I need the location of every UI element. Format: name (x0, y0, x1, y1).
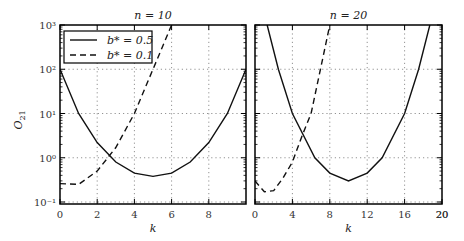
chart-figure: 0246810⁻¹10⁰10¹10²10³n = 10k04812162020n… (0, 0, 464, 241)
x-tick-label: 8 (327, 209, 333, 220)
x-tick-label: 0 (57, 209, 63, 220)
x-tick-label: 2 (94, 209, 100, 220)
panel-title: n = 10 (134, 9, 171, 22)
y-tick-label: 10⁰ (39, 153, 56, 164)
series-b05-line (60, 69, 246, 176)
y-tick-label: 10⁻¹ (34, 197, 56, 208)
panel-n20: 04812162020n = 20k (252, 9, 449, 235)
legend: b* = 0.5b* = 0.1 (64, 31, 153, 63)
x-tick-label: 8 (206, 209, 212, 220)
x-tick-label: 12 (361, 209, 374, 220)
y-axis-label: O21 (12, 110, 27, 129)
y-tick-label: 10¹ (39, 109, 56, 120)
x-tick-label: 6 (168, 209, 174, 220)
x-tick-label: 4 (131, 209, 137, 220)
legend-label-b05: b* = 0.5 (107, 34, 153, 47)
x-tick-label: 16 (398, 209, 411, 220)
x-axis-label: k (150, 222, 157, 235)
x-tick-label: 20 (436, 209, 449, 220)
x-tick-label: 0 (252, 209, 258, 220)
series-b01-line (255, 25, 330, 192)
legend-label-b01: b* = 0.1 (107, 49, 153, 62)
y-tick-label: 10² (39, 64, 56, 75)
curves (255, 25, 430, 192)
x-tick-label: 4 (289, 209, 295, 220)
panel-title: n = 20 (330, 9, 367, 22)
x-axis-label: k (345, 222, 352, 235)
y-tick-label: 10³ (39, 20, 56, 31)
